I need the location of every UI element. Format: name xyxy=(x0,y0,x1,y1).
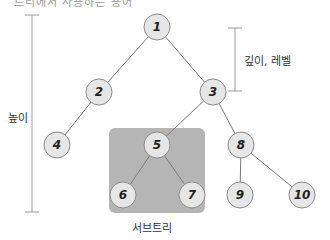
tree-node-4: 4 xyxy=(44,132,70,158)
subtree-label: 서브트리 xyxy=(132,219,172,235)
svg-text:9: 9 xyxy=(236,188,244,202)
tree-node-10: 10 xyxy=(289,182,315,208)
svg-text:5: 5 xyxy=(153,138,161,152)
svg-text:1: 1 xyxy=(153,20,161,34)
svg-text:10: 10 xyxy=(294,188,311,202)
svg-text:7: 7 xyxy=(188,188,197,202)
tree-node-3: 3 xyxy=(200,79,226,105)
tree-node-8: 8 xyxy=(228,132,254,158)
tree-node-5: 5 xyxy=(144,132,170,158)
tree-node-9: 9 xyxy=(227,182,253,208)
depth-level-label: 깊이, 레벨 xyxy=(244,52,291,68)
depth-bracket xyxy=(228,28,242,91)
tree-node-2: 2 xyxy=(86,79,112,105)
tree-node-1: 1 xyxy=(144,14,170,40)
tree-diagram: 1 2 3 4 5 8 6 7 9 10 xyxy=(0,0,330,240)
tree-node-6: 6 xyxy=(110,182,136,208)
svg-text:4: 4 xyxy=(52,138,61,152)
svg-text:6: 6 xyxy=(119,188,127,202)
svg-text:8: 8 xyxy=(237,138,245,152)
tree-node-7: 7 xyxy=(179,182,205,208)
svg-text:3: 3 xyxy=(209,85,217,99)
svg-text:2: 2 xyxy=(95,85,103,99)
height-label: 높이 xyxy=(8,109,28,125)
